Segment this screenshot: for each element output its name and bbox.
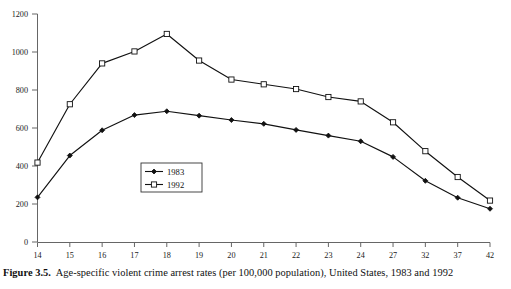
- data-point-1992-19: [197, 58, 202, 63]
- x-tick-label: 22: [292, 251, 300, 260]
- y-axis-ticks: [32, 14, 38, 242]
- data-point-1983-24: [358, 139, 363, 144]
- figure-caption-text: Age-specific violent crime arrest rates …: [51, 267, 453, 278]
- x-tick-label: 19: [195, 251, 203, 260]
- data-point-1983-21: [261, 121, 266, 126]
- data-point-1992-17: [132, 49, 137, 54]
- data-point-1983-23: [326, 133, 331, 138]
- line-chart: 020040060080010001200 141516171819202122…: [0, 0, 511, 264]
- data-point-1992-20: [229, 77, 234, 82]
- data-point-1992-27: [390, 120, 395, 125]
- data-point-1992-21: [261, 82, 266, 87]
- y-tick-label: 1200: [12, 10, 28, 19]
- legend-marker-1992: [151, 182, 156, 187]
- x-tick-label: 17: [130, 251, 138, 260]
- data-point-1992-37: [455, 174, 460, 179]
- data-point-1992-14: [35, 160, 40, 165]
- data-point-1992-18: [164, 31, 169, 36]
- y-tick-label: 1000: [12, 48, 28, 57]
- x-tick-label: 20: [227, 251, 235, 260]
- figure-caption: Figure 3.5. Age-specific violent crime a…: [3, 266, 509, 280]
- data-point-1992-32: [423, 149, 428, 154]
- y-tick-label: 800: [16, 86, 28, 95]
- y-tick-label: 0: [24, 238, 28, 247]
- y-axis-tick-labels: 020040060080010001200: [12, 10, 28, 247]
- chart-plot-area: 020040060080010001200 141516171819202122…: [0, 0, 511, 264]
- series-markers: [35, 31, 493, 211]
- x-tick-label: 23: [324, 251, 332, 260]
- x-tick-label: 15: [66, 251, 74, 260]
- x-tick-label: 37: [454, 251, 462, 260]
- legend-label-1992: 1992: [167, 180, 184, 190]
- figure-number: Figure 3.5.: [3, 267, 51, 278]
- x-tick-label: 16: [98, 251, 106, 260]
- figure-container: 020040060080010001200 141516171819202122…: [0, 0, 511, 289]
- data-point-1983-20: [229, 118, 234, 123]
- data-point-1992-22: [293, 86, 298, 91]
- x-axis-ticks: [38, 243, 491, 248]
- x-axis-tick-labels: 141516171819202122232427323742: [33, 251, 494, 260]
- data-point-1983-42: [488, 206, 493, 211]
- data-point-1992-23: [326, 94, 331, 99]
- y-tick-label: 400: [16, 162, 28, 171]
- data-point-1983-17: [132, 113, 137, 118]
- data-point-1983-18: [164, 109, 169, 114]
- x-tick-label: 21: [260, 251, 268, 260]
- data-point-1983-19: [197, 113, 202, 118]
- legend-label-1983: 1983: [167, 167, 184, 177]
- y-tick-label: 200: [16, 200, 28, 209]
- data-point-1983-37: [455, 195, 460, 200]
- x-tick-label: 24: [357, 251, 365, 260]
- data-point-1992-15: [67, 102, 72, 107]
- series-line-1992: [38, 34, 491, 201]
- chart-legend: 19831992: [141, 163, 202, 192]
- data-point-1983-22: [294, 127, 299, 132]
- x-tick-label: 14: [33, 251, 41, 260]
- x-tick-label: 27: [389, 251, 397, 260]
- x-tick-label: 32: [421, 251, 429, 260]
- data-point-1992-42: [487, 198, 492, 203]
- x-tick-label: 18: [163, 251, 171, 260]
- y-tick-label: 600: [16, 124, 28, 133]
- data-point-1992-24: [358, 99, 363, 104]
- data-point-1992-16: [100, 61, 105, 66]
- x-tick-label: 42: [486, 251, 494, 260]
